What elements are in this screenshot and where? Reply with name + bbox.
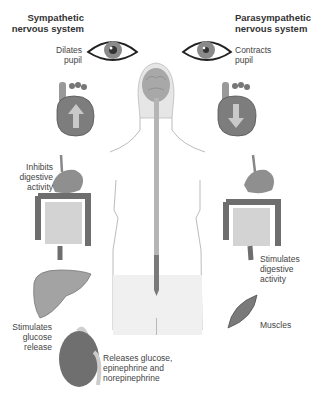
label-line: Stimulates bbox=[260, 254, 312, 264]
kidney-adrenal-icon bbox=[59, 326, 99, 387]
label-line: pupil bbox=[235, 55, 295, 65]
label-line: Releases glucose, bbox=[103, 353, 193, 363]
eye-icon-left bbox=[88, 41, 137, 60]
title-line: Parasympathetic bbox=[235, 12, 312, 23]
label-releases-glucose: Releases glucose, epinephrine and norepi… bbox=[103, 353, 193, 383]
label-contracts-pupil: Contracts pupil bbox=[235, 45, 295, 65]
label-stimulates-glucose: Stimulates glucose release bbox=[0, 322, 52, 352]
label-line: Inhibits bbox=[0, 162, 53, 172]
muscle-icon bbox=[228, 295, 257, 328]
parasympathetic-title: Parasympathetic nervous system bbox=[235, 12, 312, 34]
label-line: pupil bbox=[30, 55, 82, 65]
heart-icon-left bbox=[57, 82, 94, 136]
title-line: nervous system bbox=[10, 23, 84, 34]
label-line: glucose bbox=[0, 332, 52, 342]
label-line: digestive bbox=[0, 172, 53, 182]
label-line: Stimulates bbox=[0, 322, 52, 332]
spinal-cord-lower bbox=[154, 255, 159, 296]
label-line: Muscles bbox=[260, 320, 310, 330]
title-line: nervous system bbox=[235, 23, 312, 34]
digestive-system-right bbox=[226, 155, 278, 260]
liver-icon bbox=[34, 270, 91, 318]
heart-icon-right bbox=[218, 82, 256, 136]
label-line: Contracts bbox=[235, 45, 295, 55]
label-line: activity bbox=[0, 182, 53, 192]
label-dilates-pupil: Dilates pupil bbox=[30, 45, 82, 65]
label-line: digestive bbox=[260, 264, 312, 274]
label-line: norepinephrine bbox=[103, 373, 193, 383]
eye-icon-right bbox=[183, 41, 231, 60]
label-line: release bbox=[0, 342, 52, 352]
label-line: Dilates bbox=[30, 45, 82, 55]
label-line: epinephrine and bbox=[103, 363, 193, 373]
label-stimulates-digestive: Stimulates digestive activity bbox=[260, 254, 312, 284]
sympathetic-title: Sympathetic nervous system bbox=[10, 12, 84, 34]
title-line: Sympathetic bbox=[10, 12, 84, 23]
label-muscles: Muscles bbox=[260, 320, 310, 330]
label-inhibits-digestive: Inhibits digestive activity bbox=[0, 162, 53, 192]
label-line: activity bbox=[260, 274, 312, 284]
spinal-cord bbox=[154, 98, 159, 258]
